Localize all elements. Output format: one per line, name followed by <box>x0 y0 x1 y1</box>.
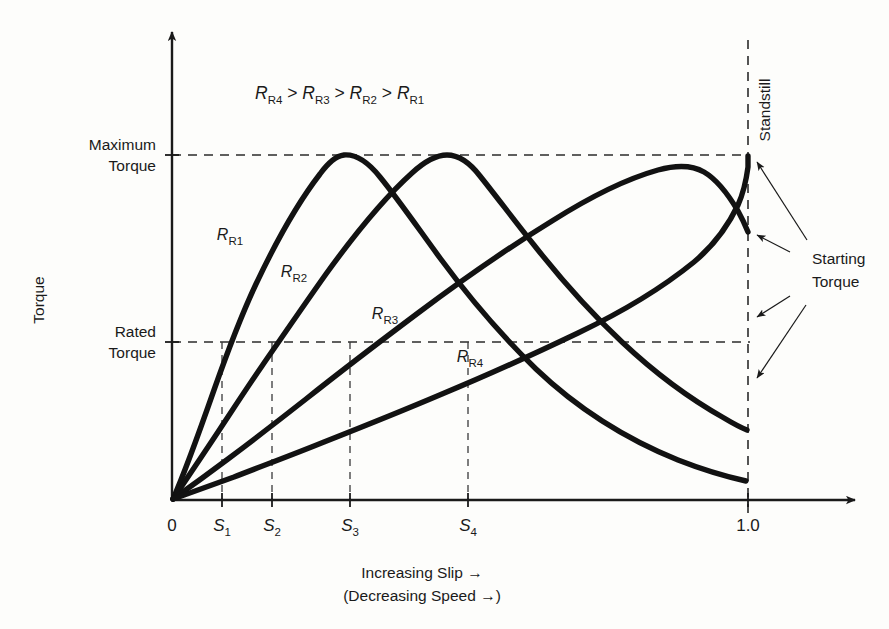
curve-label-rr1-base: R <box>217 226 229 243</box>
x-tick-label-s3-sub: 3 <box>352 526 358 538</box>
x-tick-label-one-zero: 1.0 <box>736 516 760 535</box>
curve-rr2 <box>173 155 747 499</box>
x-axis-title-group: Increasing Slip → (Decreasing Speed →) <box>343 564 501 604</box>
ineq-r1-sub: R1 <box>410 94 425 106</box>
curve-label-rr3-sub: R3 <box>383 314 398 326</box>
x-tick-label-s2: S2 <box>263 516 281 538</box>
leader-to-rr2-endpoint <box>757 296 790 317</box>
ineq-op-2: > <box>330 83 350 103</box>
leader-to-rr1-endpoint <box>757 305 806 378</box>
curve-label-rr3: RR3 <box>372 305 398 326</box>
ineq-op-1: > <box>282 83 302 103</box>
x-tick-label-s1: S1 <box>213 516 231 538</box>
starting-torque-annotation: Starting Torque <box>812 250 865 290</box>
curve-label-rr2: RR2 <box>281 263 307 284</box>
x-tick-label-zero: 0 <box>167 516 176 535</box>
curve-label-rr4-sub: R4 <box>468 357 483 369</box>
curve-label-rr2-base: R <box>281 263 293 280</box>
maximum-torque-label-line2: Torque <box>109 157 156 174</box>
curve-label-rr3-base: R <box>372 305 384 322</box>
curve-label-rr4-base: R <box>457 348 469 365</box>
x-tick-label-s4-base: S <box>459 516 471 535</box>
ineq-r1-base: R <box>397 83 410 103</box>
x-tick-label-s1-sub: 1 <box>224 526 230 538</box>
x-tick-label-s3: S3 <box>341 516 359 538</box>
ineq-r3-base: R <box>302 83 315 103</box>
curve-rr3 <box>173 166 748 499</box>
curve-label-rr1: RR1 <box>217 226 243 247</box>
starting-torque-leaders <box>757 162 807 378</box>
curve-label-rr4: RR4 <box>457 348 484 369</box>
x-tick-label-s2-base: S <box>263 516 275 535</box>
ineq-op-3: > <box>377 83 397 103</box>
ineq-r3-sub: R3 <box>315 94 330 106</box>
maximum-torque-label-line1: Maximum <box>89 136 156 153</box>
curves-group <box>173 155 748 499</box>
y-axis-text-group: Torque Maximum Torque Rated Torque <box>30 136 156 361</box>
chart-canvas: Torque Maximum Torque Rated Torque 0 S1 … <box>0 0 889 629</box>
resistance-inequality-annotation: RR4 > RR3 > RR2 > RR1 <box>255 83 424 106</box>
x-tick-label-s4-sub: 4 <box>470 526 477 538</box>
starting-torque-label-line2: Torque <box>812 273 859 290</box>
x-tick-labels: 0 S1 S2 S3 S4 1.0 <box>167 516 760 538</box>
standstill-label: Standstill <box>756 79 773 142</box>
torque-slip-figure: Torque Maximum Torque Rated Torque 0 S1 … <box>0 0 889 629</box>
ineq-r4-base: R <box>255 83 268 103</box>
leader-to-rr3-endpoint <box>757 235 790 252</box>
curve-rr4 <box>173 156 748 499</box>
x-tick-label-s2-sub: 2 <box>274 526 280 538</box>
curve-label-rr2-sub: R2 <box>292 272 307 284</box>
resistance-inequality-text: RR4 > RR3 > RR2 > RR1 <box>255 83 424 106</box>
curve-rr1 <box>173 155 746 499</box>
x-axis-title-line1: Increasing Slip → <box>361 564 482 581</box>
ineq-r2-sub: R2 <box>362 94 377 106</box>
ineq-r4-sub: R4 <box>268 94 283 106</box>
x-axis-title-line2: (Decreasing Speed →) <box>343 587 501 604</box>
x-tick-label-s1-base: S <box>213 516 225 535</box>
starting-torque-label-line1: Starting <box>812 250 865 267</box>
standstill-annotation: Standstill <box>756 79 773 142</box>
rated-torque-label-line1: Rated <box>115 323 156 340</box>
rated-torque-label-line2: Torque <box>109 344 156 361</box>
x-tick-label-s4: S4 <box>459 516 477 538</box>
leader-to-rr4-endpoint <box>757 162 807 240</box>
y-axis-title: Torque <box>30 276 47 323</box>
x-tick-label-s3-base: S <box>341 516 353 535</box>
curve-label-rr1-sub: R1 <box>228 235 243 247</box>
ineq-r2-base: R <box>350 83 363 103</box>
